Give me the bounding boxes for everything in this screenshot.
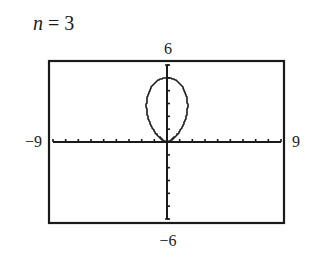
chart: 6 −6 −9 9 xyxy=(0,0,313,258)
x-max-label: 9 xyxy=(292,133,300,150)
x-min-label: −9 xyxy=(25,133,42,150)
y-max-label: 6 xyxy=(164,40,172,57)
y-min-label: −6 xyxy=(159,232,176,249)
